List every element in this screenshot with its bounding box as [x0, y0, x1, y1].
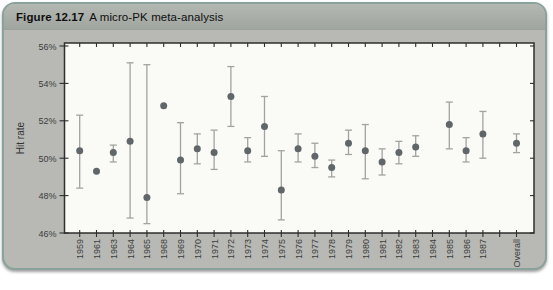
data-point	[143, 194, 150, 201]
x-tick-label: 1985	[445, 239, 455, 259]
y-tick-label: 48%	[38, 191, 56, 201]
x-tick-label: 1961	[92, 239, 102, 259]
data-point	[160, 102, 167, 109]
data-point	[362, 147, 369, 154]
data-point	[110, 149, 117, 156]
x-tick-label: 1969	[176, 239, 186, 259]
y-tick-label: 50%	[38, 154, 56, 164]
y-tick-label: 56%	[38, 42, 56, 52]
x-tick-label: 1982	[394, 239, 404, 259]
x-tick-label: 1980	[361, 239, 371, 259]
data-point	[76, 147, 83, 154]
data-point	[177, 157, 184, 164]
y-tick-label: 52%	[38, 116, 56, 126]
y-axis-label: Hit rate	[15, 121, 26, 154]
data-point	[211, 149, 218, 156]
data-point	[244, 147, 251, 154]
x-tick-label: 1970	[193, 239, 203, 259]
x-tick-label: 1987	[478, 239, 488, 259]
data-point	[328, 164, 335, 171]
data-point	[412, 143, 419, 150]
y-tick-label: 54%	[38, 79, 56, 89]
data-point	[93, 168, 100, 175]
x-tick-label: 1977	[310, 239, 320, 259]
data-point	[127, 138, 134, 145]
data-point	[194, 145, 201, 152]
x-tick-label: 1986	[462, 239, 472, 259]
x-tick-label: 1968	[159, 239, 169, 259]
data-point	[345, 140, 352, 147]
data-point	[311, 153, 318, 160]
data-point	[278, 186, 285, 193]
x-tick-label: 1973	[243, 239, 253, 259]
data-point	[513, 140, 520, 147]
x-tick-label: 1979	[344, 239, 354, 259]
x-tick-label: 1984	[428, 239, 438, 259]
x-tick-label: 1981	[378, 239, 388, 259]
data-point	[227, 93, 234, 100]
x-tick-label: 1975	[277, 239, 287, 259]
x-tick-label: 1978	[327, 239, 337, 259]
data-point	[295, 145, 302, 152]
data-point	[379, 158, 386, 165]
x-tick-label: 1959	[75, 239, 85, 259]
x-tick-label: Overall	[512, 239, 522, 268]
x-tick-label: 1971	[210, 239, 220, 259]
x-tick-label: 1963	[109, 239, 119, 259]
data-point	[261, 123, 268, 130]
x-tick-label: 1976	[294, 239, 304, 259]
x-tick-label: 1964	[126, 239, 136, 259]
data-point	[395, 149, 402, 156]
y-tick-label: 46%	[38, 229, 56, 239]
x-tick-label: 1965	[142, 239, 152, 259]
x-tick-label: 1974	[260, 239, 270, 259]
data-point	[479, 130, 486, 137]
data-point	[446, 121, 453, 128]
x-tick-label: 1983	[411, 239, 421, 259]
x-tick-label: 1972	[226, 239, 236, 259]
meta-analysis-chart: 46%48%50%52%54%56%Hit rate19591961196319…	[0, 0, 553, 290]
data-point	[463, 147, 470, 154]
